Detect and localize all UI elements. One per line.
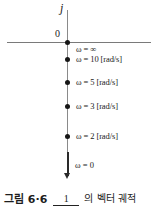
fraction-numerator: 1 xyxy=(58,194,75,205)
real-axis-line xyxy=(7,42,151,43)
locus-point-omega-2 xyxy=(65,134,70,139)
figure-number: 그림 6·6 xyxy=(0,193,47,206)
locus-point-omega-3 xyxy=(65,104,70,109)
caption-fraction: 1 xyxy=(53,194,79,206)
locus-label-omega-3: ω = 3 [rad/s] xyxy=(76,102,118,111)
locus-point-omega-infinity xyxy=(65,40,70,45)
locus-label-omega-0: ω = 0 xyxy=(75,161,94,170)
vector-locus-figure: j 0 ω = ∞ ω = 10 [rad/s] ω = 5 [rad/s] ω… xyxy=(0,0,153,206)
caption-trailing-text: 의 벡터 궤적 xyxy=(84,193,135,206)
locus-label-omega-10: ω = 10 [rad/s] xyxy=(76,55,122,64)
locus-point-omega-10 xyxy=(65,57,70,62)
origin-label: 0 xyxy=(55,29,60,39)
locus-label-omega-5: ω = 5 [rad/s] xyxy=(76,78,118,87)
imaginary-axis-line xyxy=(67,10,68,172)
imaginary-axis-label: j xyxy=(60,2,63,14)
fraction-bar xyxy=(53,205,79,206)
figure-caption: 그림 6·6 1 의 벡터 궤적 xyxy=(0,184,153,206)
locus-label-omega-2: ω = 2 [rad/s] xyxy=(76,132,118,141)
direction-arrow-head-icon xyxy=(64,173,70,179)
locus-label-omega-infinity: ω = ∞ xyxy=(76,45,96,54)
locus-point-omega-5 xyxy=(65,80,70,85)
